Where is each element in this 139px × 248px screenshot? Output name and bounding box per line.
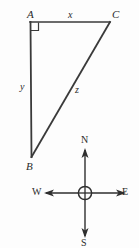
compass-label-south: S: [81, 238, 87, 248]
right-angle-marker: [31, 23, 39, 31]
vertex-label-c: C: [112, 9, 119, 20]
compass-label-east: E: [122, 187, 128, 197]
triangle-side-ab: [31, 22, 32, 157]
compass-label-west: W: [32, 187, 41, 197]
triangle-side-bc: [32, 22, 111, 157]
geometry-figure: A C B x y z N E S W: [0, 0, 139, 248]
side-label-x: x: [68, 10, 72, 20]
compass-label-north: N: [81, 135, 88, 145]
side-label-y: y: [20, 82, 24, 92]
figure-canvas: [0, 0, 139, 248]
vertex-label-b: B: [26, 161, 33, 172]
vertex-label-a: A: [27, 9, 34, 20]
side-label-z: z: [75, 85, 79, 95]
